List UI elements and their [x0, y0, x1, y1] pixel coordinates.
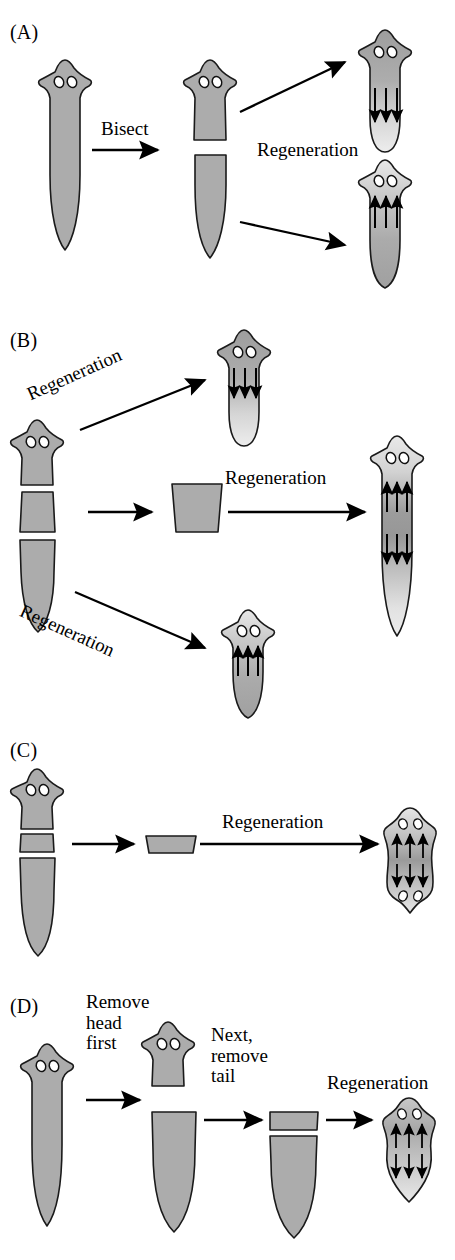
worm-intact-a [39, 60, 92, 250]
label-remove-head-first: Remove head first [86, 992, 149, 1054]
fragment-remaining-tail-d [270, 1136, 317, 1238]
worm-head-part-c [11, 769, 64, 829]
arrow-regeneration-tail [240, 222, 345, 245]
worm-intact-d [21, 1044, 74, 1226]
panel-d: (D) [0, 940, 455, 1260]
result-worm-b-middle [371, 436, 424, 636]
label-bisect: Bisect [101, 119, 149, 140]
worm-tail-half-a [195, 155, 226, 258]
fragment-body-d [152, 1112, 196, 1232]
panel-d-graphic [0, 940, 455, 1260]
arrow-regeneration-head [240, 62, 345, 112]
worm-middle-piece-b [20, 492, 55, 532]
worm-head-half-a [184, 60, 237, 140]
result-worm-b-top [218, 330, 271, 446]
result-worm-d [383, 1098, 435, 1202]
fragment-trapezoid-b [172, 484, 222, 532]
label-regeneration-a: Regeneration [257, 140, 358, 161]
worm-head-piece-b [11, 420, 64, 485]
label-regeneration-d: Regeneration [327, 1073, 428, 1094]
result-bipolar-worm-c [384, 808, 436, 913]
label-regeneration-c: Regeneration [222, 812, 323, 833]
panel-b: (B) [0, 320, 455, 700]
panel-a-graphic [0, 0, 455, 320]
label-next-remove-tail: Next, remove tail [211, 1025, 268, 1087]
fragment-slice-c [146, 836, 196, 853]
result-worm-head-regrows-tail [359, 30, 412, 152]
worm-slice-insitu-c [20, 834, 54, 852]
fragment-slice-d [270, 1112, 318, 1130]
fragment-head-d [142, 1022, 195, 1086]
arrow-regeneration-b-top [80, 380, 205, 430]
label-regeneration-b-middle: Regeneration [225, 468, 326, 489]
panel-c: (C) [0, 700, 455, 950]
result-worm-tail-regrows-head [359, 160, 412, 288]
panel-a: (A) [0, 0, 455, 320]
